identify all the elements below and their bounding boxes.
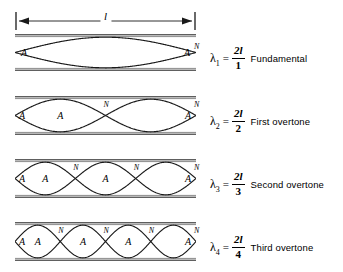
harmonic-name: Fundamental — [251, 53, 308, 64]
equals-sign: = — [223, 52, 229, 64]
harmonic-name: Third overtone — [251, 242, 314, 253]
length-label: l — [100, 9, 111, 23]
formula-third-overtone: λ4 = 2l 4 Third overtone — [210, 234, 313, 260]
fraction-denominator: 1 — [234, 60, 244, 72]
wave-diagram — [15, 222, 196, 261]
wavelength-fraction: 2l 1 — [232, 45, 245, 71]
fraction-denominator: 2 — [234, 123, 244, 135]
fraction-numerator: 2l — [232, 108, 245, 120]
lambda-symbol: λ4 — [210, 240, 220, 255]
wave-diagram — [15, 96, 196, 135]
formula-first-overtone: λ2 = 2l 2 First overtone — [210, 108, 310, 134]
wave-diagram — [15, 159, 196, 198]
formula-second-overtone: λ3 = 2l 3 Second overtone — [210, 171, 324, 197]
harmonic-name: Second overtone — [251, 179, 324, 190]
harmonic-row-second-overtone: AAAANNN — [15, 159, 196, 198]
equals-sign: = — [223, 115, 229, 127]
standing-wave-harmonics-figure: l AAN λ1 = 2l 1 Fundamental AAANN λ2 = 2… — [0, 0, 343, 272]
wave-diagram — [15, 34, 196, 71]
fraction-numerator: 2l — [232, 234, 245, 246]
fraction-denominator: 3 — [234, 186, 244, 198]
lambda-symbol: λ1 — [210, 51, 220, 66]
formula-fundamental: λ1 = 2l 1 Fundamental — [210, 45, 307, 71]
harmonic-row-first-overtone: AAANN — [15, 96, 196, 135]
length-dimension-arrow: l — [15, 10, 196, 32]
wavelength-fraction: 2l 3 — [232, 171, 245, 197]
harmonic-name: First overtone — [251, 116, 310, 127]
equals-sign: = — [223, 178, 229, 190]
harmonic-row-fundamental: AAN — [15, 34, 196, 71]
lambda-symbol: λ3 — [210, 177, 220, 192]
fraction-numerator: 2l — [232, 171, 245, 183]
wavelength-fraction: 2l 2 — [232, 108, 245, 134]
harmonic-row-third-overtone: AAAAANNNN — [15, 222, 196, 261]
wavelength-fraction: 2l 4 — [232, 234, 245, 260]
lambda-symbol: λ2 — [210, 114, 220, 129]
equals-sign: = — [223, 241, 229, 253]
fraction-numerator: 2l — [232, 45, 245, 57]
fraction-denominator: 4 — [234, 249, 244, 261]
